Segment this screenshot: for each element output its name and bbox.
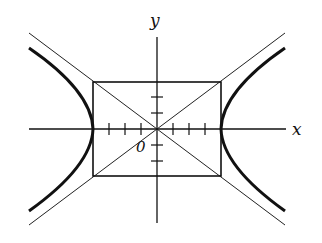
origin-label: 0	[136, 138, 146, 156]
y-axis-label: y	[149, 10, 160, 30]
x-axis-label: x	[292, 119, 302, 139]
hyperbola-diagram: y x 0	[0, 0, 322, 243]
